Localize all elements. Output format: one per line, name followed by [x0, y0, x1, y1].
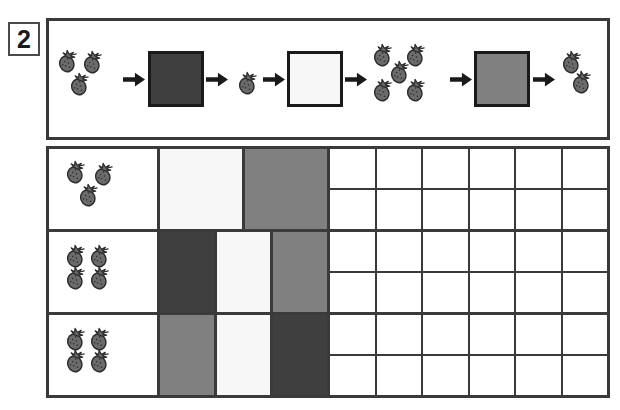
empty-answer-cell[interactable]: [563, 149, 608, 188]
empty-answer-cell[interactable]: [563, 190, 608, 229]
empty-subrow: [330, 315, 607, 356]
empty-answer-cell[interactable]: [377, 149, 424, 188]
arrow-right-icon: [531, 72, 557, 87]
sequence-step-4: [230, 64, 260, 94]
strawberry-group-4: [63, 243, 125, 301]
empty-answer-cell[interactable]: [516, 273, 563, 312]
strawberry: [88, 327, 112, 351]
empty-answer-cell[interactable]: [423, 232, 470, 271]
arrow-right-icon: [261, 72, 287, 87]
pattern-cell-white[interactable]: [217, 315, 274, 395]
strawberry: [56, 49, 80, 73]
empty-answer-cell[interactable]: [470, 315, 517, 354]
empty-answer-cell[interactable]: [563, 356, 608, 395]
strawberry-group-3: [63, 158, 135, 220]
exercise-number-text: 2: [17, 27, 31, 52]
strawberry: [88, 349, 112, 373]
empty-answer-cell[interactable]: [563, 232, 608, 271]
empty-answer-cell[interactable]: [377, 232, 424, 271]
worksheet-page: 2: [0, 0, 620, 410]
row-label-cell-1: [49, 149, 160, 229]
sequence-step-12: [557, 48, 601, 110]
pattern-cell-white[interactable]: [217, 232, 274, 312]
empty-answer-cell[interactable]: [516, 315, 563, 354]
empty-answer-cell[interactable]: [470, 149, 517, 188]
answer-grid: [46, 146, 610, 398]
empty-answer-cell[interactable]: [330, 190, 377, 229]
empty-answer-cell[interactable]: [330, 356, 377, 395]
empty-answer-cell[interactable]: [516, 232, 563, 271]
strawberry-icon: [88, 349, 112, 373]
empty-answer-cell[interactable]: [470, 190, 517, 229]
pattern-cell-dark[interactable]: [160, 232, 217, 312]
empty-answer-cell[interactable]: [330, 273, 377, 312]
empty-subrow: [330, 232, 607, 273]
strawberry: [404, 78, 428, 102]
strawberry: [68, 72, 92, 96]
grid-row: [49, 149, 607, 232]
pattern-cell-gray[interactable]: [245, 149, 327, 229]
strawberry-icon: [64, 266, 88, 290]
strawberry-icon: [64, 160, 88, 184]
arrow-right-icon: [121, 72, 147, 87]
empty-answer-cell[interactable]: [377, 273, 424, 312]
row-pattern-zone-3: [160, 315, 330, 395]
strawberry-icon: [88, 244, 112, 268]
gray-square: [474, 51, 530, 107]
strawberry: [81, 50, 105, 74]
empty-answer-cell[interactable]: [423, 315, 470, 354]
empty-answer-cell[interactable]: [423, 356, 470, 395]
strawberry-group-2: [557, 48, 601, 110]
row-pattern-zone-1: [160, 149, 330, 229]
empty-answer-cell[interactable]: [377, 315, 424, 354]
empty-answer-cell[interactable]: [563, 273, 608, 312]
empty-answer-cell[interactable]: [377, 356, 424, 395]
strawberry: [64, 266, 88, 290]
empty-answer-cell[interactable]: [516, 190, 563, 229]
strawberry-icon: [56, 49, 80, 73]
empty-answer-cell[interactable]: [330, 149, 377, 188]
empty-subrow: [330, 149, 607, 190]
strawberry-group-5: [370, 42, 448, 116]
empty-answer-cell[interactable]: [516, 149, 563, 188]
empty-answer-cell[interactable]: [470, 356, 517, 395]
strawberry: [570, 70, 594, 94]
pattern-cell-gray[interactable]: [273, 232, 327, 312]
strawberry: [88, 244, 112, 268]
strawberry-icon: [64, 244, 88, 268]
strawberry-icon: [570, 70, 594, 94]
empty-answer-cell[interactable]: [516, 356, 563, 395]
row-label-cell-2: [49, 232, 160, 312]
strawberry-icon: [371, 78, 395, 102]
arrow-right-icon: [448, 72, 474, 87]
grid-row: [49, 315, 607, 395]
strawberry: [88, 266, 112, 290]
empty-subrow: [330, 273, 607, 312]
empty-answer-cell[interactable]: [330, 315, 377, 354]
strawberry: [64, 349, 88, 373]
empty-answer-cell[interactable]: [423, 190, 470, 229]
row-empty-zone-2: [330, 232, 607, 312]
empty-answer-cell[interactable]: [423, 273, 470, 312]
empty-answer-cell[interactable]: [470, 232, 517, 271]
strawberry-icon: [236, 71, 260, 95]
empty-answer-cell[interactable]: [470, 273, 517, 312]
pattern-cell-white[interactable]: [160, 149, 245, 229]
row-empty-zone-1: [330, 149, 607, 229]
pattern-cell-dark[interactable]: [273, 315, 327, 395]
empty-answer-cell[interactable]: [563, 315, 608, 354]
row-berry-group: [63, 326, 125, 384]
strawberry-group-1: [230, 64, 260, 94]
strawberry-icon: [404, 78, 428, 102]
row-empty-zone-3: [330, 315, 607, 395]
empty-answer-cell[interactable]: [423, 149, 470, 188]
pattern-cell-gray[interactable]: [160, 315, 217, 395]
strawberry: [236, 71, 260, 95]
grid-row: [49, 232, 607, 315]
strawberry: [64, 244, 88, 268]
empty-answer-cell[interactable]: [377, 190, 424, 229]
white-square: [287, 51, 343, 107]
empty-answer-cell[interactable]: [330, 232, 377, 271]
sequence-step-0: [55, 46, 121, 112]
strawberry: [64, 327, 88, 351]
